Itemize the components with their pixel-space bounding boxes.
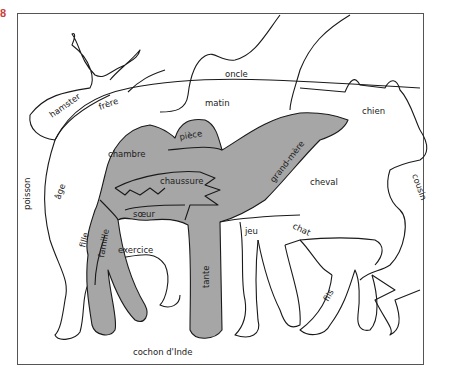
word-hamster: hamster: [47, 91, 82, 120]
word-jeu: jeu: [244, 226, 258, 236]
word-chat: chat: [291, 221, 313, 238]
word-cheval: cheval: [310, 177, 338, 187]
word-frere: frère: [97, 96, 119, 112]
hidden-picture-puzzle: oncle hamster frère matin chien poisson …: [0, 0, 450, 379]
cousin-shape: [360, 130, 427, 280]
word-tante: tante: [201, 266, 211, 289]
word-chambre: chambre: [108, 149, 145, 159]
word-fils: fils: [321, 287, 336, 303]
word-cousin: cousin: [410, 172, 429, 201]
word-cochon-dinde: cochon d'Inde: [133, 347, 192, 357]
word-matin: matin: [205, 98, 230, 108]
word-poisson: poisson: [22, 178, 32, 210]
hamster-shape: [30, 34, 140, 115]
word-exercice: exercice: [118, 245, 153, 255]
word-chaussure: chaussure: [160, 176, 203, 186]
camel-shape: [87, 113, 348, 338]
word-soeur: sœur: [133, 209, 156, 219]
word-age: âge: [52, 182, 67, 200]
word-oncle: oncle: [225, 69, 248, 79]
word-chien: chien: [362, 106, 385, 116]
